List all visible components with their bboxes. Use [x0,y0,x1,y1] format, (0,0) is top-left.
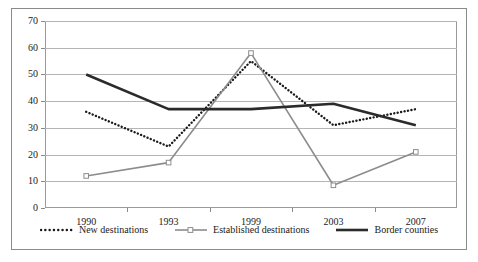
legend-label: Border counties [374,225,438,235]
x-tick-mark [127,208,128,212]
legend-item-border-counties: Border counties [335,225,438,235]
legend-item-established-destinations: Established destinations [174,225,309,235]
series-marker [166,160,171,165]
series-marker [249,51,254,56]
series-marker [84,174,89,179]
y-tick-label: 10 [28,176,38,186]
y-tick-label: 50 [28,69,38,79]
y-tick-label: 70 [28,16,38,26]
legend-swatch-gray-marker-line-icon [174,225,208,235]
series-layer [45,21,457,208]
legend-swatch-dotted-line-icon [40,225,74,235]
y-tick-label: 60 [28,43,38,53]
legend-label: Established destinations [213,225,309,235]
series-line [86,61,416,146]
y-tick-label: 0 [33,203,38,213]
x-tick-mark [210,208,211,212]
y-tick-label: 40 [28,96,38,106]
x-tick-mark [292,208,293,212]
series-marker [414,150,419,155]
chart-figure: 010203040506070 19901993199920032007 New… [11,8,467,250]
legend-swatch-solid-line-icon [335,225,369,235]
y-tick-label: 20 [28,150,38,160]
legend-item-new-destinations: New destinations [40,225,148,235]
series-marker [331,183,336,188]
y-tick-label: 30 [28,123,38,133]
chart-legend: New destinations Established destination… [12,225,466,235]
legend-label: New destinations [79,225,148,235]
plot-area: 010203040506070 19901993199920032007 [45,21,457,208]
x-tick-mark [375,208,376,212]
y-tick-mark [41,208,45,209]
